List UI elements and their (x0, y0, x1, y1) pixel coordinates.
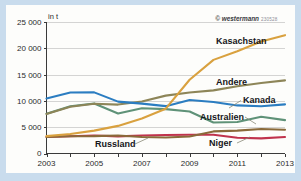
publisher-code: 230528 (261, 17, 278, 22)
publisher-credit: © westermann (215, 15, 259, 22)
y-tick-label: 0 (37, 149, 42, 158)
x-tick-label: 2013 (276, 159, 294, 168)
series-label-niger: Niger (209, 138, 233, 148)
series-label-russland: Russland (95, 139, 136, 149)
x-tick-label: 2007 (133, 159, 151, 168)
y-tick-label: 5 000 (21, 123, 42, 132)
y-tick-label: 10 000 (17, 97, 42, 106)
x-tick-label: 2011 (229, 159, 247, 168)
line-chart-svg: 05 00010 00015 00020 00025 000 200320052… (0, 0, 301, 181)
series-label-australien: Australien (200, 112, 244, 122)
x-tick-label: 2009 (181, 159, 199, 168)
series-label-kasachstan: Kasachstan (216, 36, 267, 46)
data-series-group (47, 35, 286, 138)
series-label-andere: Andere (216, 77, 247, 87)
y-tick-label: 15 000 (17, 71, 42, 80)
series-label-kanada: Kanada (243, 95, 277, 105)
y-tick-label: 20 000 (17, 44, 42, 53)
x-tick-label: 2005 (85, 159, 103, 168)
x-tick-label: 2003 (38, 159, 56, 168)
chart-figure: 05 00010 00015 00020 00025 000 200320052… (0, 0, 301, 181)
y-axis-unit-label: in t (48, 12, 59, 21)
leader-line-russland (135, 138, 148, 144)
x-tick-labels: 200320052007200920112013 (38, 159, 295, 168)
y-tick-labels: 05 00010 00015 00020 00025 000 (17, 18, 42, 159)
chart-plot-area: 05 00010 00015 00020 00025 000 200320052… (0, 0, 301, 181)
y-tick-label: 25 000 (17, 18, 42, 27)
